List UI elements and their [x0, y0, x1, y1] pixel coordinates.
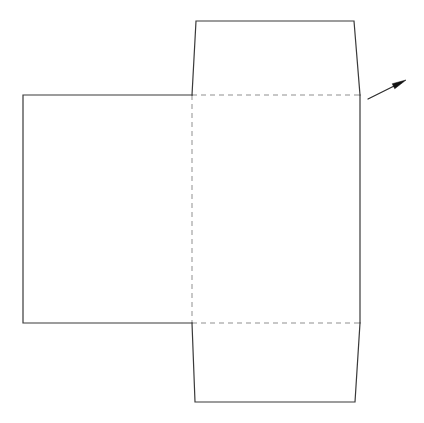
center-panel-face: [192, 95, 360, 323]
top-flap-face: [192, 21, 360, 95]
bottom-flap-face: [192, 323, 360, 402]
left-panel-face: [23, 95, 192, 323]
diagram-canvas: [0, 0, 424, 423]
box-net-drawing: [0, 0, 424, 423]
